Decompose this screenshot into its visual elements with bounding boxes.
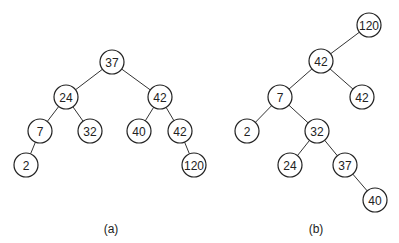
tree-edge bbox=[76, 69, 103, 89]
node-label: 32 bbox=[310, 125, 324, 139]
tree-node: 42 bbox=[148, 85, 172, 109]
tree-edge bbox=[185, 142, 190, 154]
tree-node: 32 bbox=[305, 119, 329, 143]
tree-edge bbox=[297, 140, 309, 155]
tree-edge bbox=[325, 140, 338, 155]
tree-edge bbox=[289, 69, 312, 89]
tree-node: 24 bbox=[278, 153, 302, 177]
tree-edge bbox=[31, 142, 36, 154]
node-label: 37 bbox=[105, 56, 119, 70]
tree-edge bbox=[73, 107, 83, 121]
tree-node: 37 bbox=[100, 50, 124, 74]
node-label: 2 bbox=[244, 125, 251, 139]
node-label: 42 bbox=[153, 91, 167, 105]
node-label: 24 bbox=[283, 159, 297, 173]
tree-captions: (a)(b) bbox=[104, 222, 324, 236]
tree-edge bbox=[289, 105, 308, 123]
binary-tree-diagram: 3724427324042212012042742232243740 (a)(b… bbox=[0, 0, 399, 243]
tree-node: 37 bbox=[333, 153, 357, 177]
tree-edge bbox=[122, 69, 151, 90]
tree-node: 120 bbox=[182, 153, 206, 177]
tree-edge bbox=[255, 106, 271, 123]
node-label: 2 bbox=[23, 159, 30, 173]
tree-edge bbox=[145, 107, 153, 121]
node-label: 7 bbox=[37, 125, 44, 139]
tree-edge bbox=[166, 107, 174, 120]
tree-node: 40 bbox=[363, 188, 387, 212]
node-label: 42 bbox=[314, 55, 328, 69]
tree-node: 42 bbox=[309, 49, 333, 73]
tree-edge bbox=[353, 174, 367, 191]
tree-node: 7 bbox=[28, 119, 52, 143]
tree-edge bbox=[331, 32, 360, 54]
node-label: 32 bbox=[83, 125, 97, 139]
node-label: 24 bbox=[59, 91, 73, 105]
tree-node: 24 bbox=[54, 85, 78, 109]
tree-edge bbox=[47, 107, 58, 122]
tree-nodes: 3724427324042212012042742232243740 bbox=[14, 13, 387, 212]
tree-caption-b: (b) bbox=[309, 222, 324, 236]
node-label: 120 bbox=[359, 19, 379, 33]
node-label: 7 bbox=[277, 91, 284, 105]
node-label: 37 bbox=[338, 159, 352, 173]
tree-caption-a: (a) bbox=[104, 222, 119, 236]
tree-node: 42 bbox=[168, 119, 192, 143]
node-label: 40 bbox=[368, 194, 382, 208]
tree-node: 40 bbox=[127, 119, 151, 143]
node-label: 40 bbox=[132, 125, 146, 139]
node-label: 120 bbox=[184, 159, 204, 173]
tree-edge bbox=[330, 69, 353, 89]
tree-node: 32 bbox=[78, 119, 102, 143]
tree-node: 7 bbox=[268, 85, 292, 109]
tree-node: 42 bbox=[350, 85, 374, 109]
tree-node: 120 bbox=[357, 13, 381, 37]
node-label: 42 bbox=[173, 125, 187, 139]
node-label: 42 bbox=[355, 91, 369, 105]
tree-node: 2 bbox=[235, 119, 259, 143]
tree-node: 2 bbox=[14, 153, 38, 177]
